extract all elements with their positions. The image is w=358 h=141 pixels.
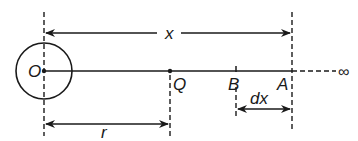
label-r: r <box>101 123 108 141</box>
label-origin: O <box>28 62 41 81</box>
label-infinity: ∞ <box>338 63 349 80</box>
point-q-dot <box>168 69 172 73</box>
origin-dot <box>42 69 46 73</box>
label-x: x <box>164 24 174 43</box>
label-dx: dx <box>250 89 268 108</box>
label-b: B <box>228 75 239 94</box>
label-a: A <box>276 75 288 94</box>
label-q: Q <box>173 75 186 94</box>
diagram-canvas: x r dx O Q B A ∞ <box>0 0 358 141</box>
